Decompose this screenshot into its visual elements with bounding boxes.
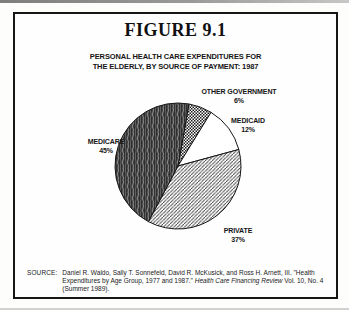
slice-label-other-government-pct: 6% — [201, 96, 276, 105]
slice-label-private: PRIVATE 37% — [224, 226, 253, 244]
figure-box: FIGURE 9.1 PERSONAL HEALTH CARE EXPENDIT… — [13, 12, 338, 299]
pie-chart — [15, 14, 336, 293]
source-label: SOURCE: — [27, 269, 57, 277]
slice-label-medicare-name: MEDICARE — [88, 137, 125, 146]
slice-label-medicaid-pct: 12% — [231, 125, 265, 134]
slice-label-private-name: PRIVATE — [224, 226, 253, 235]
slice-label-medicare-pct: 45% — [88, 146, 125, 155]
slice-label-private-pct: 37% — [224, 235, 253, 244]
source-text-journal: Health Care Financing Review — [195, 277, 283, 284]
slice-label-medicaid-name: MEDICAID — [231, 116, 265, 125]
slice-label-other-government-name: OTHER GOVERNMENT — [201, 87, 276, 96]
slice-label-other-government: OTHER GOVERNMENT 6% — [201, 87, 276, 105]
scan-artifact-top-band — [0, 0, 349, 3]
source-note: SOURCE: Daniel R. Waldo, Sally T. Sonnef… — [27, 269, 327, 293]
slice-label-medicaid: MEDICAID 12% — [231, 116, 265, 134]
source-text: Daniel R. Waldo, Sally T. Sonnefeld, Dav… — [62, 269, 327, 293]
slice-label-medicare: MEDICARE 45% — [88, 137, 125, 155]
scan-artifact-bottom-band — [0, 308, 349, 310]
